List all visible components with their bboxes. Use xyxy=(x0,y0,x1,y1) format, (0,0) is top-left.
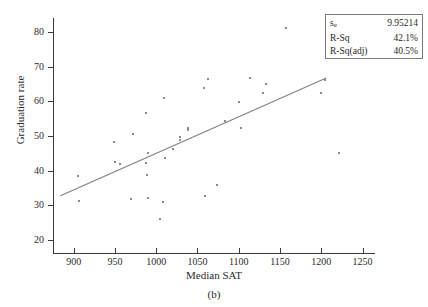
data-point xyxy=(203,87,205,89)
x-tick-label: 950 xyxy=(95,256,135,267)
data-point xyxy=(204,195,206,197)
data-point xyxy=(119,163,121,165)
data-point xyxy=(249,77,251,79)
data-point xyxy=(147,197,149,199)
data-point xyxy=(130,198,132,200)
x-tick-label: 1100 xyxy=(219,256,259,267)
data-point xyxy=(145,112,147,114)
data-point xyxy=(164,157,166,159)
data-point xyxy=(179,139,181,141)
legend-row: se 9.95214 xyxy=(330,17,418,32)
x-tick-label: 1000 xyxy=(136,256,176,267)
data-point xyxy=(146,174,148,176)
data-point xyxy=(324,79,326,81)
x-tick-label: 1200 xyxy=(301,256,341,267)
legend-value: 9.95214 xyxy=(387,17,418,30)
data-point xyxy=(145,162,147,164)
legend-row: R-Sq 42.1% xyxy=(330,32,418,45)
data-point xyxy=(147,152,149,154)
cut-off-title xyxy=(110,0,320,3)
x-tick-label: 1150 xyxy=(260,256,300,267)
x-tick-label: 1050 xyxy=(177,256,217,267)
data-point xyxy=(163,97,165,99)
data-point xyxy=(238,101,240,103)
legend-value: 42.1% xyxy=(393,32,418,45)
data-point xyxy=(338,152,340,154)
data-point xyxy=(265,83,267,85)
data-point xyxy=(132,133,134,135)
x-tick-label: 900 xyxy=(54,256,94,267)
x-tick-label: 1250 xyxy=(343,256,383,267)
y-tick-label: 20 xyxy=(0,235,44,245)
data-point xyxy=(240,127,242,129)
statistics-legend-box: se 9.95214 R-Sq 42.1% R-Sq(adj) 40.5% xyxy=(325,14,423,59)
data-point xyxy=(320,92,322,94)
data-point xyxy=(77,175,79,177)
y-tick-label: 80 xyxy=(0,27,44,37)
data-point xyxy=(187,129,189,131)
x-axis-label: Median SAT xyxy=(53,269,375,281)
data-point xyxy=(285,27,287,29)
figure-caption: (b) xyxy=(0,288,428,300)
data-point xyxy=(207,78,209,80)
legend-key: R-Sq(adj) xyxy=(330,45,367,58)
data-point xyxy=(216,184,218,186)
data-point xyxy=(262,92,264,94)
data-point xyxy=(224,120,226,122)
data-point xyxy=(113,141,115,143)
legend-key: se xyxy=(330,17,337,32)
y-axis-label: Graduation rate xyxy=(14,40,26,180)
y-tick-label: 30 xyxy=(0,200,44,210)
legend-row: R-Sq(adj) 40.5% xyxy=(330,45,418,58)
scatter-plot-figure: 20304050607080 9009501000105011001150120… xyxy=(0,0,428,307)
legend-key: R-Sq xyxy=(330,32,350,45)
data-point xyxy=(78,200,80,202)
data-point xyxy=(187,127,189,129)
data-point xyxy=(172,148,174,150)
data-point xyxy=(114,161,116,163)
legend-value: 40.5% xyxy=(393,45,418,58)
data-point xyxy=(159,218,161,220)
data-point xyxy=(162,201,164,203)
